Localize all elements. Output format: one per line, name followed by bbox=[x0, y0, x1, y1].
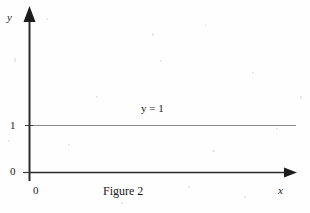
figure-caption: Figure 2 bbox=[103, 185, 143, 197]
y-axis-arrowhead-icon bbox=[24, 6, 36, 22]
origin-label: 0 bbox=[33, 185, 39, 196]
x-axis-label: x bbox=[278, 185, 283, 196]
figure-canvas: y x 1 0 0 y = 1 Figure 2 bbox=[0, 0, 310, 213]
y-tick-label-0: 0 bbox=[10, 166, 16, 177]
y-axis-label: y bbox=[7, 12, 12, 23]
equation-label-y-equals-1: y = 1 bbox=[141, 103, 164, 114]
x-axis-arrowhead-icon bbox=[284, 168, 297, 178]
y-tick-label-1: 1 bbox=[10, 120, 16, 131]
